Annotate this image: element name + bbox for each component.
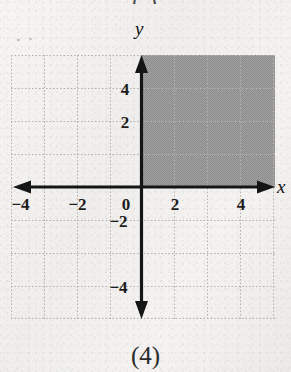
top-caption-partial: ( ) xyxy=(0,0,291,4)
y-axis-arrow-down xyxy=(135,301,148,319)
y-tick-label--4: −4 xyxy=(102,278,135,298)
x-axis-arrow-right xyxy=(257,181,275,194)
y-axis-label: y xyxy=(135,18,143,40)
y-axis-arrow-up xyxy=(135,55,148,73)
x-tick-label-4: 4 xyxy=(232,195,250,215)
plot-area: −4 −2 0 2 4 4 2 −2 −4 y x xyxy=(11,55,275,319)
x-axis-arrow-left xyxy=(13,181,31,194)
y-tick-label-2: 2 xyxy=(115,113,135,133)
y-tick-label-4: 4 xyxy=(115,80,135,100)
bottom-caption: (4) xyxy=(0,342,291,370)
paper-speck-icon xyxy=(29,38,32,40)
x-tick-label--2: −2 xyxy=(60,195,95,215)
coordinate-plane-figure: ( ) xyxy=(0,0,291,372)
x-axis-label: x xyxy=(277,176,285,198)
paper-speck-icon xyxy=(17,39,20,41)
x-tick-label--4: −4 xyxy=(3,195,38,215)
y-tick-label--2: −2 xyxy=(102,212,135,232)
axes xyxy=(11,55,275,319)
x-tick-label-2: 2 xyxy=(166,195,184,215)
